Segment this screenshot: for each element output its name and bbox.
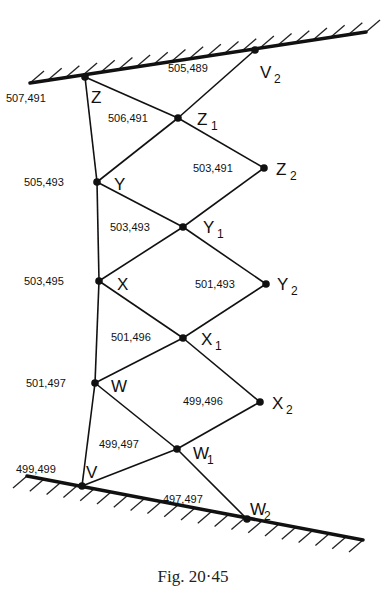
edge-X-X1 bbox=[99, 281, 183, 338]
node-point bbox=[173, 445, 181, 453]
hatch-line bbox=[332, 537, 346, 549]
node-subscript: 2 bbox=[290, 169, 297, 183]
top-boundary-wall bbox=[30, 32, 366, 83]
node-subscript: 2 bbox=[274, 72, 281, 86]
node-label: W bbox=[111, 377, 127, 396]
hatch-line bbox=[181, 508, 195, 520]
node-label: Y bbox=[277, 275, 288, 294]
node-value: 501,493 bbox=[195, 278, 235, 290]
node-subscript: 2 bbox=[264, 509, 271, 523]
net-nodes: 507,491Z505,489V2506,491Z1503,491Z2505,4… bbox=[6, 46, 298, 523]
node-label: V bbox=[260, 63, 272, 82]
node-value: 503,493 bbox=[110, 221, 150, 233]
node-label: Z bbox=[91, 88, 101, 107]
edge-Z1-Z2 bbox=[178, 118, 264, 168]
hatch-line bbox=[265, 524, 279, 536]
edge-Y1-Y2 bbox=[183, 227, 266, 284]
hatch-line bbox=[47, 482, 61, 494]
hatch-line bbox=[366, 20, 380, 32]
node-value: 499,497 bbox=[99, 438, 139, 450]
node-point bbox=[179, 334, 187, 342]
bottom-wall-hatching bbox=[13, 476, 363, 552]
node-Z2: 503,491Z2 bbox=[193, 160, 297, 183]
hatch-line bbox=[63, 486, 77, 498]
node-subscript: 1 bbox=[207, 453, 214, 467]
edge-Y-X bbox=[97, 182, 99, 281]
node-point bbox=[262, 280, 270, 288]
hatch-line bbox=[30, 479, 44, 491]
node-value: 503,491 bbox=[193, 162, 233, 174]
node-X1: 501,496X1 bbox=[111, 330, 222, 353]
node-value: 497,497 bbox=[163, 493, 203, 505]
node-value: 501,496 bbox=[111, 331, 151, 343]
node-value: 501,497 bbox=[26, 377, 66, 389]
node-label: Z bbox=[197, 110, 207, 129]
node-point bbox=[81, 73, 89, 81]
node-subscript: 1 bbox=[217, 227, 224, 241]
hatch-line bbox=[114, 495, 128, 507]
bottom-boundary-wall bbox=[27, 476, 363, 540]
node-point bbox=[256, 398, 264, 406]
edge-X1-W bbox=[95, 338, 183, 383]
node-label: X bbox=[201, 330, 212, 349]
node-label: V bbox=[86, 463, 98, 482]
hatch-line bbox=[164, 505, 178, 517]
node-point bbox=[78, 482, 86, 490]
node-label: Y bbox=[114, 175, 125, 194]
node-subscript: 1 bbox=[211, 119, 218, 133]
node-value: 506,491 bbox=[108, 112, 148, 124]
node-subscript: 1 bbox=[215, 339, 222, 353]
hatch-line bbox=[80, 489, 94, 501]
node-W1: 499,497W1 bbox=[99, 438, 214, 467]
edge-X-W bbox=[95, 281, 99, 383]
node-point bbox=[260, 164, 268, 172]
node-subscript: 2 bbox=[286, 403, 293, 417]
node-W2: 497,497W2 bbox=[163, 493, 271, 523]
node-point bbox=[95, 277, 103, 285]
node-value: 505,493 bbox=[24, 176, 64, 188]
hatch-line bbox=[349, 540, 363, 552]
node-label: Y bbox=[203, 218, 214, 237]
node-label: X bbox=[272, 394, 283, 413]
node-subscript: 2 bbox=[291, 284, 298, 298]
hatch-line bbox=[248, 521, 262, 533]
node-value: 507,491 bbox=[6, 92, 46, 104]
node-Y: 505,493Y bbox=[24, 175, 125, 194]
hatch-line bbox=[215, 514, 229, 526]
hatch-line bbox=[315, 534, 329, 546]
node-point bbox=[91, 379, 99, 387]
hatch-line bbox=[299, 530, 313, 542]
node-value: 505,489 bbox=[168, 62, 208, 74]
node-label: Z bbox=[276, 160, 286, 179]
node-W: 501,497W bbox=[26, 377, 127, 396]
relaxation-net-diagram: 507,491Z505,489V2506,491Z1503,491Z2505,4… bbox=[0, 0, 386, 602]
node-value: 499,499 bbox=[16, 463, 56, 475]
hatch-line bbox=[198, 511, 212, 523]
hatch-line bbox=[282, 527, 296, 539]
figure-caption: Fig. 20·45 bbox=[158, 567, 229, 586]
node-label: X bbox=[117, 275, 128, 294]
node-Y2: 501,493Y2 bbox=[195, 275, 298, 298]
edge-Y1-Z2 bbox=[183, 168, 264, 227]
edge-X1-Y2 bbox=[183, 284, 266, 338]
hatch-line bbox=[13, 476, 27, 488]
node-point bbox=[93, 178, 101, 186]
edge-W1-X2 bbox=[177, 402, 260, 449]
node-value: 503,495 bbox=[24, 275, 64, 287]
edge-Z1-Y bbox=[97, 118, 178, 182]
node-value: 499,496 bbox=[183, 395, 223, 407]
node-point bbox=[174, 114, 182, 122]
hatch-line bbox=[131, 498, 145, 510]
hatch-line bbox=[147, 502, 161, 514]
edge-Y1-X bbox=[99, 227, 183, 281]
hatch-line bbox=[97, 492, 111, 504]
node-point bbox=[251, 46, 259, 54]
node-point bbox=[179, 223, 187, 231]
